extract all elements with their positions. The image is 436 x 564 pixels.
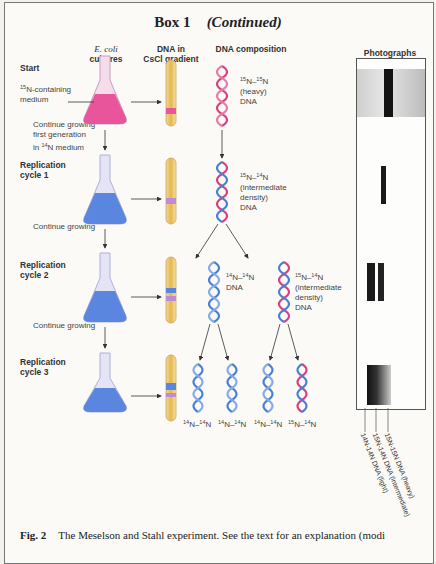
band-heavy (384, 69, 393, 117)
band-light-cycle2 (367, 263, 375, 301)
band-labels: 14N-14N DNA (light) 15N-14N DNA (interme… (358, 410, 428, 520)
dna-helix-start (217, 66, 227, 126)
caption-text: The Meselson and Stahl experiment. See t… (58, 529, 385, 541)
tube-start (166, 60, 176, 126)
band-cycle3 (367, 365, 391, 405)
flask-start (84, 56, 127, 124)
band-intermediate-cycle2 (378, 263, 384, 301)
caption-fig-number: Fig. 2 (20, 529, 46, 541)
figure-caption: Fig. 2The Meselson and Stahl experiment.… (20, 529, 385, 541)
band-photographs (356, 58, 426, 410)
dna-helix-cycle2-right (279, 262, 289, 322)
flask-cycle3 (84, 353, 127, 412)
flask-cycle2 (84, 253, 127, 322)
tube-cycle3 (166, 355, 176, 421)
dna-helix-cycle1 (217, 162, 227, 222)
dna-helix-cycle3-2 (228, 364, 237, 412)
band-photo-start (357, 69, 425, 117)
tube-cycle1 (166, 158, 176, 224)
tube-cycle2 (166, 257, 176, 323)
dna-helix-cycle3-3 (264, 364, 273, 412)
dna-helix-cycle3-1 (194, 364, 203, 412)
band-intermediate-cycle1 (381, 166, 386, 204)
dna-helix-cycle2-left (209, 262, 219, 322)
dna-helix-cycle3-4 (298, 364, 307, 412)
flask-cycle1 (84, 155, 127, 224)
